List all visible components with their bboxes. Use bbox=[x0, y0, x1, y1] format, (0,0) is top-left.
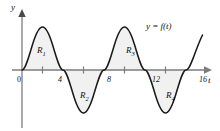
figure-graph-of-f: y t y = f(t) 0 4 8 12 16 R1 R2 R3 R4 bbox=[0, 0, 220, 131]
region-label-R2-sub: 2 bbox=[86, 95, 89, 102]
tick-label-8: 8 bbox=[107, 76, 111, 84]
region-label-R3: R3 bbox=[126, 46, 135, 57]
tick-label-12: 12 bbox=[152, 76, 160, 84]
region-label-R1-sub: 1 bbox=[43, 50, 46, 57]
region-label-R4-sub: 4 bbox=[172, 95, 175, 102]
region-fill-R3 bbox=[104, 27, 145, 70]
plot-canvas bbox=[0, 0, 220, 131]
origin-label: 0 bbox=[17, 76, 21, 84]
region-label-R4: R4 bbox=[166, 91, 175, 102]
tick-label-16: 16 bbox=[199, 76, 207, 84]
y-axis-label: y bbox=[11, 3, 15, 12]
y-axis-arrowhead bbox=[18, 9, 25, 17]
t-axis-label: t bbox=[208, 76, 211, 85]
region-label-R3-sub: 3 bbox=[132, 50, 135, 57]
region-label-R2: R2 bbox=[80, 91, 89, 102]
tick-label-4: 4 bbox=[58, 76, 62, 84]
function-label: y = f(t) bbox=[146, 22, 172, 31]
region-label-R1: R1 bbox=[37, 46, 46, 57]
t-axis-arrowhead bbox=[204, 66, 212, 74]
